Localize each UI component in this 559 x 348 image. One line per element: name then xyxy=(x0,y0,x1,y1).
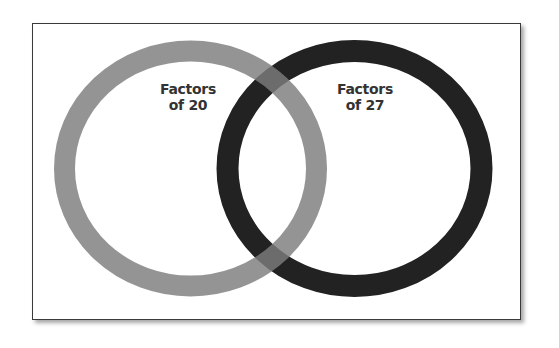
label-line-1: Factors xyxy=(320,81,410,97)
label-line-2: of 20 xyxy=(143,97,233,113)
label-line-1: Factors xyxy=(143,81,233,97)
label-line-2: of 27 xyxy=(320,97,410,113)
venn-diagram xyxy=(0,0,559,348)
factors-of-27-label: Factors of 27 xyxy=(320,81,410,113)
factors-of-20-label: Factors of 20 xyxy=(143,81,233,113)
